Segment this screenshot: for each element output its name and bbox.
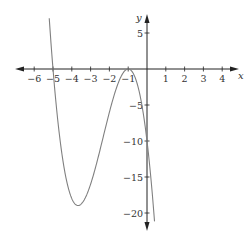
y-axis-up-arrow-icon bbox=[145, 14, 150, 23]
x-tick-label: −2 bbox=[102, 73, 116, 84]
x-tick-label: 1 bbox=[163, 73, 169, 84]
x-tick-label: −4 bbox=[65, 73, 79, 84]
ticks: −6−5−4−3−2−112345−5−10−15−20 bbox=[27, 28, 225, 219]
function-curve bbox=[49, 18, 154, 221]
y-axis-label: y bbox=[135, 12, 142, 23]
y-tick-label: −10 bbox=[123, 136, 143, 147]
x-tick-label: 3 bbox=[200, 73, 206, 84]
axes bbox=[15, 14, 239, 231]
x-tick-label: 2 bbox=[182, 73, 188, 84]
x-tick-label: −1 bbox=[121, 73, 135, 84]
x-tick-label: −3 bbox=[84, 73, 98, 84]
x-axis-left-arrow-icon bbox=[15, 67, 24, 72]
curve-path bbox=[49, 18, 154, 221]
cubic-function-graph: −6−5−4−3−2−112345−5−10−15−20 x y bbox=[0, 0, 250, 246]
chart-container: −6−5−4−3−2−112345−5−10−15−20 x y bbox=[0, 0, 250, 246]
y-tick-label: −15 bbox=[123, 172, 143, 183]
x-tick-label: −6 bbox=[27, 73, 41, 84]
y-tick-label: −20 bbox=[123, 208, 143, 219]
y-axis-down-arrow-icon bbox=[145, 222, 150, 231]
y-tick-label: 5 bbox=[137, 28, 143, 39]
x-axis-label: x bbox=[238, 70, 244, 81]
x-tick-label: 4 bbox=[219, 73, 225, 84]
